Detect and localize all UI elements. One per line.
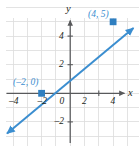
x-tick-label-0: 0: [60, 97, 65, 107]
y-tick-label-4: 4: [59, 32, 64, 42]
y-axis-label: y: [66, 4, 71, 15]
x-axis-label: x: [128, 88, 133, 99]
point-label-minus2-0: (–2, 0): [13, 78, 38, 88]
y-tick-label-minus-2: –2: [55, 117, 65, 127]
x-tick-label-minus-2: –2: [38, 97, 48, 107]
y-tick-label-2: 2: [59, 60, 64, 70]
graph-figure: y x 4 2 –2 –4 –2 0 2 4 (4, 5) (–2, 0): [0, 0, 139, 146]
coordinate-plane-svg: [0, 0, 139, 146]
point-label-4-5: (4, 5): [88, 10, 109, 20]
data-point-marker-b: [110, 18, 117, 25]
x-tick-label-minus-4: –4: [9, 97, 19, 107]
x-tick-label-4: 4: [111, 97, 116, 107]
x-tick-label-2: 2: [82, 97, 87, 107]
